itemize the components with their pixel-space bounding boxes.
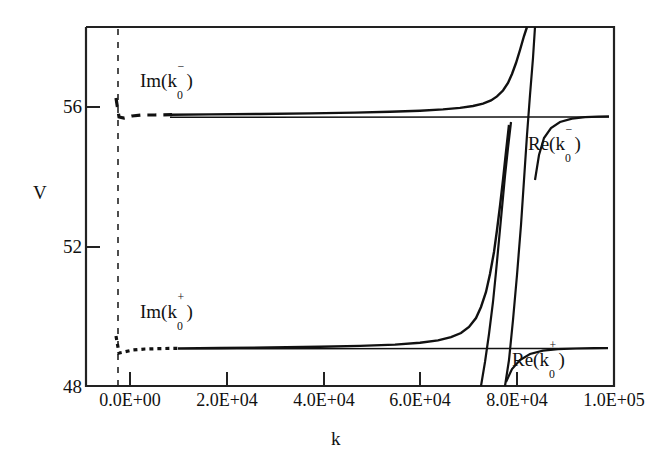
im-plus-suffix: ): [186, 301, 192, 322]
y-axis-title: V: [33, 182, 47, 204]
x-tick-label-0: 0.0E+00: [75, 390, 185, 411]
x-tick-label-60000: 6.0E+04: [365, 390, 475, 411]
re-plus-curve-steep: [481, 122, 511, 386]
x-tick-label-40000: 4.0E+04: [269, 390, 379, 411]
im-plus-curve: [178, 125, 509, 348]
im-minus-curve: [170, 27, 527, 115]
im-minus-prefix: Im(k: [140, 70, 177, 91]
x-tick-label-100000: 1.0E+05: [559, 390, 669, 411]
im-plus-curve-dotted: [116, 336, 180, 353]
im-minus-suffix: ): [186, 70, 192, 91]
re-plus-suffix: ): [558, 349, 564, 370]
x-axis-title: k: [331, 428, 341, 450]
x-tick-label-80000: 8.0E+04: [462, 390, 572, 411]
x-tick-label-20000: 2.0E+04: [172, 390, 282, 411]
re-plus-k-scripts: x0+: [549, 349, 559, 371]
im-plus-prefix: Im(k: [140, 301, 177, 322]
re-minus-k-scripts: x0−: [565, 133, 575, 155]
re-minus-label: Re(kx0−): [528, 133, 581, 155]
x-axis-ticks: [130, 372, 614, 386]
im-minus-k-scripts: x0−: [177, 70, 187, 92]
y-axis-ticks: [86, 107, 100, 247]
re-minus-prefix: Re(k: [528, 133, 565, 154]
im-plus-k-scripts: x0+: [177, 301, 187, 323]
re-plus-prefix: Re(k: [512, 349, 549, 370]
chart-figure: V k 56 52 48 0.0E+00 2.0E+04 4.0E+04 6.0…: [0, 0, 671, 470]
im-plus-label: Im(kx0+): [140, 301, 193, 323]
im-minus-curve-dashed: [116, 98, 172, 118]
re-minus-suffix: ): [574, 133, 580, 154]
re-plus-label: Re(kx0+): [512, 349, 565, 371]
y-tick-label-56: 56: [42, 96, 82, 118]
im-minus-label: Im(kx0−): [140, 70, 193, 92]
y-tick-label-52: 52: [42, 236, 82, 258]
